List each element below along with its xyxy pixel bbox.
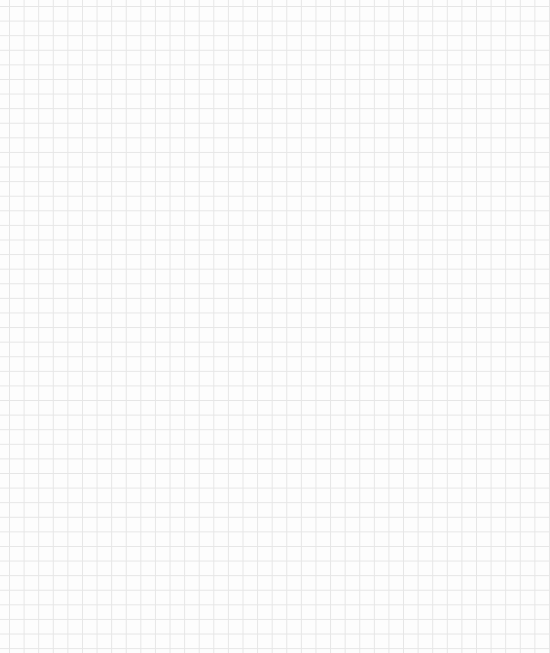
grid-canvas bbox=[0, 0, 550, 653]
